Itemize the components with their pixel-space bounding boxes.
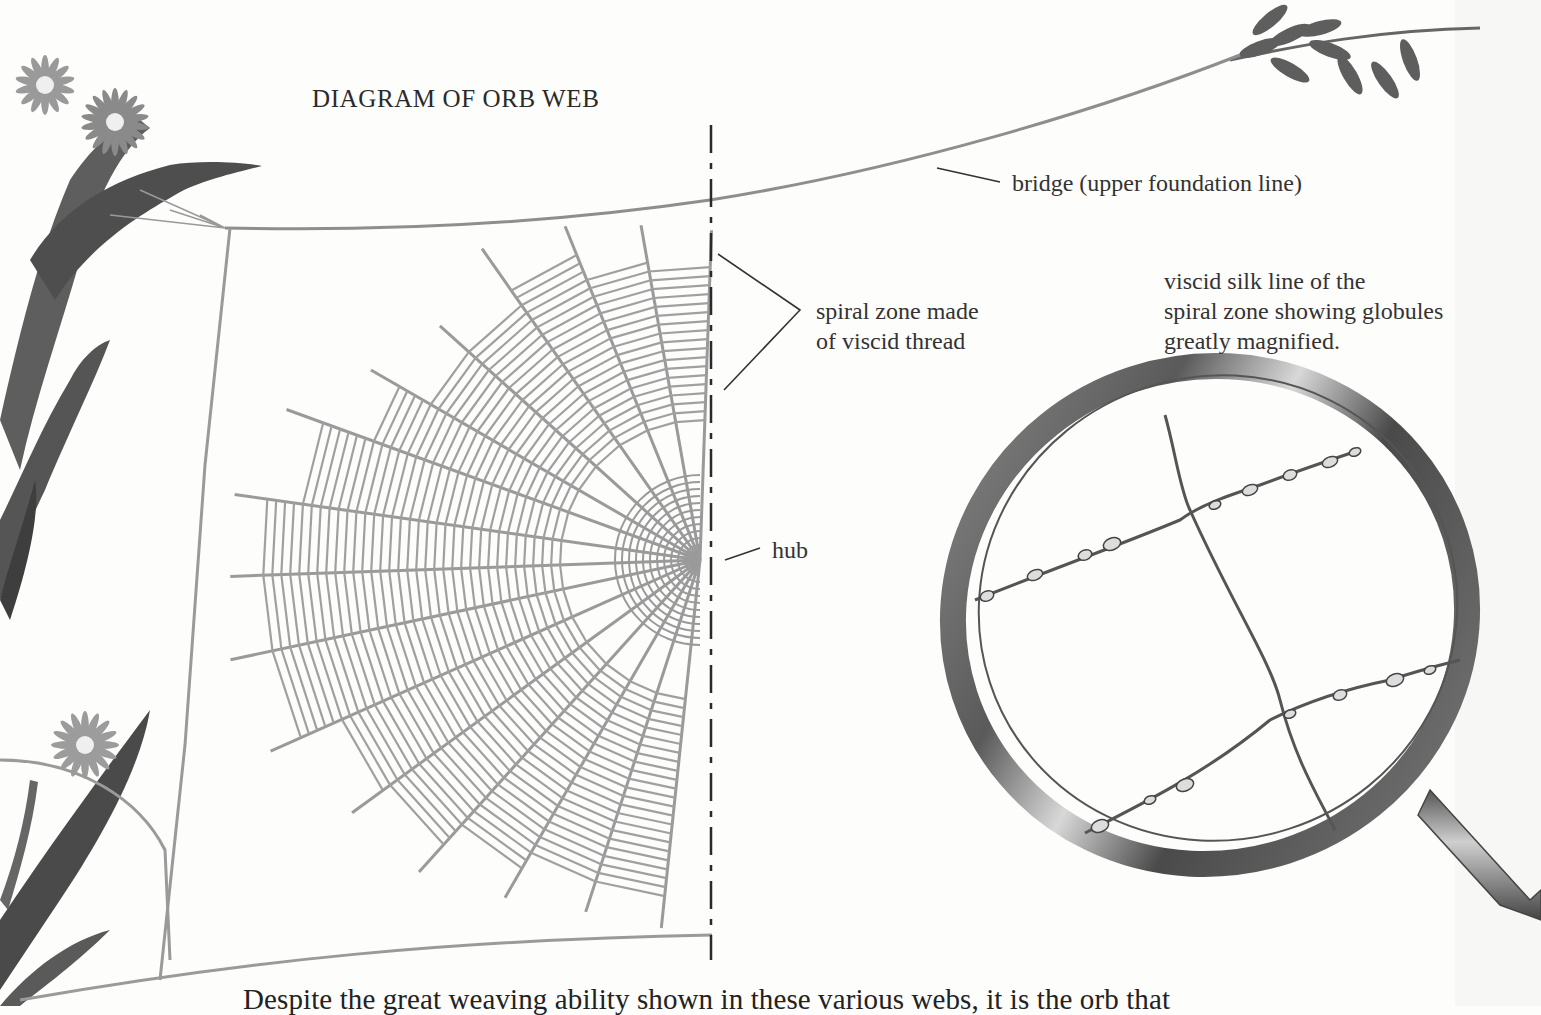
spiral-segment <box>539 632 557 664</box>
spiral-segment <box>529 685 559 718</box>
spiral-segment <box>673 402 706 404</box>
spiral-segment <box>371 572 378 629</box>
spiral-zone-bracket <box>718 254 800 390</box>
spiral-segment <box>570 704 603 728</box>
spiral-segment <box>629 779 676 789</box>
spiral-segment <box>543 477 555 503</box>
spiral-segment <box>281 502 285 575</box>
spiral-segment <box>524 566 528 597</box>
spiral-segment <box>452 569 457 612</box>
spiral-segment <box>563 589 572 617</box>
spiral-segment <box>594 677 621 696</box>
spiral-segment <box>371 514 374 571</box>
spiral-segment <box>660 330 708 333</box>
spiral-zone-label: spiral zone made of viscid thread <box>816 296 1046 356</box>
spiral-segment <box>422 619 440 676</box>
spiral-segment <box>401 457 416 518</box>
spiral-segment <box>576 775 623 796</box>
spiral-segment <box>475 441 493 479</box>
spiral-segment <box>544 506 552 538</box>
spiral-segment <box>547 628 565 658</box>
spiral-segment <box>609 414 640 431</box>
flower-center <box>76 736 94 754</box>
spiral-segment <box>408 405 431 454</box>
spiral-segment <box>408 690 441 748</box>
spiral-segment <box>551 539 552 565</box>
spiral-segment <box>552 481 564 506</box>
spiral-segment <box>655 303 709 307</box>
spiral-segment <box>632 770 677 780</box>
spiral-segment <box>272 500 276 575</box>
spiral-segment <box>594 744 635 762</box>
spiral-segment <box>413 621 432 679</box>
spiral-segment <box>425 414 447 460</box>
spiral-segment <box>399 694 433 754</box>
spiral-segment <box>335 509 338 573</box>
bridge-pointer <box>937 168 1000 182</box>
spiral-segment <box>434 753 480 804</box>
spiral-segment <box>668 375 707 378</box>
spiral-segment <box>416 570 422 619</box>
spiral-segment <box>662 339 708 342</box>
spiral-segment <box>572 783 621 805</box>
spiral-segment <box>378 628 399 693</box>
spiral-segment <box>568 347 614 372</box>
spiral-segment <box>543 674 570 704</box>
spiral-segment <box>581 767 627 787</box>
spiral-segment <box>391 396 415 448</box>
spiral-segment <box>558 664 583 691</box>
spiral-segment <box>517 263 581 298</box>
spiral-segment <box>461 527 463 569</box>
spiral-segment <box>640 745 680 753</box>
spiral-segment <box>470 568 475 608</box>
spiral-segment <box>652 285 709 289</box>
viscid-globule <box>1143 794 1157 806</box>
spiral-segment <box>335 573 343 636</box>
spiral-segment <box>669 384 706 387</box>
spiral-zone-label-line-1: spiral zone made <box>816 296 1046 326</box>
spiral-segment <box>572 653 594 678</box>
spiral-segment <box>576 423 604 448</box>
spiral-segment <box>665 357 707 360</box>
spiral-segment <box>546 593 556 624</box>
spiral-segment <box>508 494 518 533</box>
spiral-segment <box>498 784 549 821</box>
spiral-segment <box>563 798 616 821</box>
spiral-segment <box>326 508 329 573</box>
spiral-segment <box>470 727 510 771</box>
spiral-segment <box>648 719 682 726</box>
spiral-segment <box>585 759 629 779</box>
spiral-segment <box>561 512 568 540</box>
leaf-sprig <box>1230 0 1480 102</box>
spiral-segment <box>416 521 419 570</box>
magnified-label-line-3: greatly magnified. <box>1164 326 1504 356</box>
spiral-segment <box>583 431 610 455</box>
spiral-segment <box>449 613 466 664</box>
viscid-globule <box>1423 664 1437 676</box>
spiral-segment <box>627 369 666 380</box>
flower-center <box>106 113 124 131</box>
spiral-segment <box>654 294 710 298</box>
spiral-segment <box>600 671 625 689</box>
spiral-segment <box>466 610 482 658</box>
spiral-segment <box>499 491 509 532</box>
spiral-segment <box>594 389 631 409</box>
spiral-segment <box>459 432 478 473</box>
spiral-segment <box>589 438 614 460</box>
sprig-leaf <box>1396 37 1424 83</box>
spiral-segment <box>532 430 556 463</box>
viscid-globule <box>1282 468 1299 483</box>
spiral-segment <box>405 623 425 683</box>
spiral-segment <box>552 724 589 751</box>
spiral-segment <box>484 445 501 481</box>
spiral-segment <box>523 639 543 674</box>
spiral-segment <box>479 568 484 606</box>
spiral-segment <box>352 634 375 705</box>
hub-pointer <box>725 548 760 560</box>
spiral-segment <box>448 743 492 791</box>
spiral-segment <box>440 615 457 668</box>
spiral-segment <box>594 280 651 296</box>
spiral-segment <box>560 486 571 510</box>
spiral-segment <box>631 378 668 389</box>
